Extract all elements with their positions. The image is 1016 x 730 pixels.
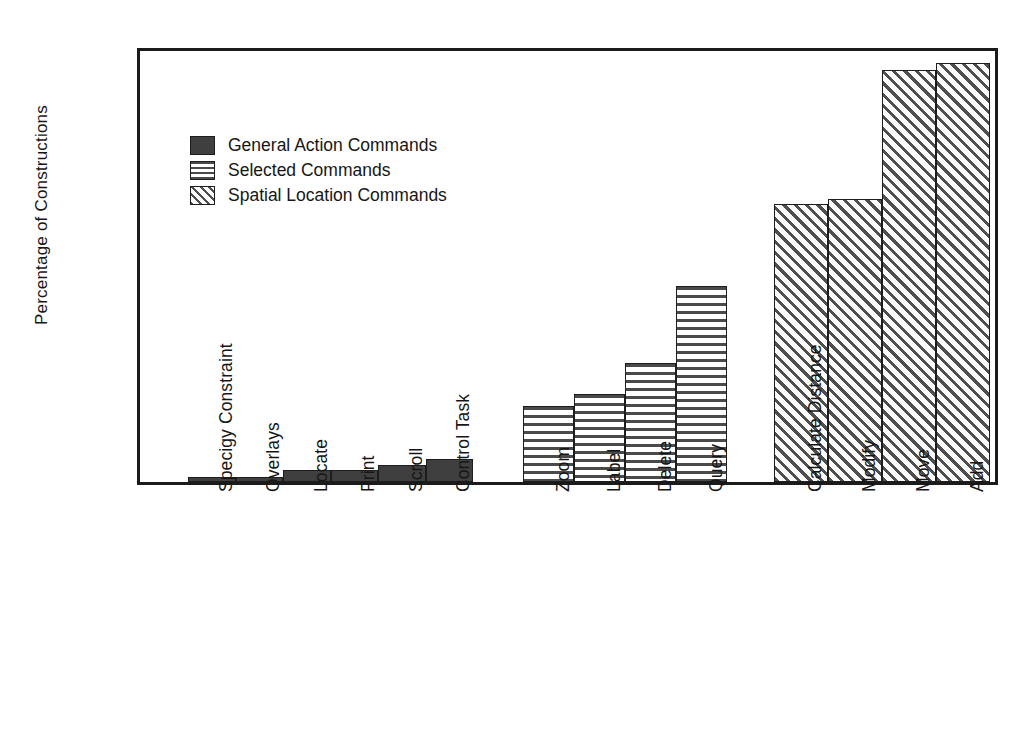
legend-swatch-icon: [190, 161, 215, 180]
legend-item-general-action-commands: General Action Commands: [190, 133, 447, 158]
x-axis-label-query: Query: [706, 444, 727, 492]
bars-layer: [140, 51, 995, 482]
x-axis-label-locate: Locate: [311, 439, 332, 492]
x-axis-label-move: Move: [913, 449, 934, 492]
legend-swatch-icon: [190, 186, 215, 205]
legend-label: Spatial Location Commands: [228, 185, 447, 206]
x-axis-label-add: Add: [967, 461, 988, 492]
x-axis-label-modify: Modify: [859, 440, 880, 492]
legend-item-spatial-location-commands: Spatial Location Commands: [190, 183, 447, 208]
chart-legend: General Action CommandsSelected Commands…: [190, 133, 447, 208]
y-axis-title: Percentage of Constructions: [32, 55, 52, 375]
legend-swatch-icon: [190, 136, 215, 155]
x-axis-label-label: Label: [604, 449, 625, 492]
x-axis-label-print: Print: [358, 456, 379, 492]
x-axis-label-calculate-distance: Calculate Distance: [805, 344, 826, 492]
x-axis-label-scroll: Scroll: [406, 448, 427, 492]
x-axis-label-control-task: Control Task: [453, 394, 474, 492]
bar-move: [882, 70, 936, 482]
legend-item-selected-commands: Selected Commands: [190, 158, 447, 183]
plot-area: [137, 48, 998, 485]
bar-add: [936, 63, 990, 482]
x-axis-label-specigy-constraint: Specigy Constraint: [216, 343, 237, 492]
x-axis-label-zoom: Zoom: [553, 447, 574, 492]
bar-chart-figure: Percentage of Constructions 807060504030…: [0, 0, 1016, 730]
legend-label: Selected Commands: [228, 160, 390, 181]
x-axis-label-delete: Delete: [655, 441, 676, 492]
x-axis-label-overlays: Overlays: [263, 422, 284, 492]
legend-label: General Action Commands: [228, 135, 437, 156]
